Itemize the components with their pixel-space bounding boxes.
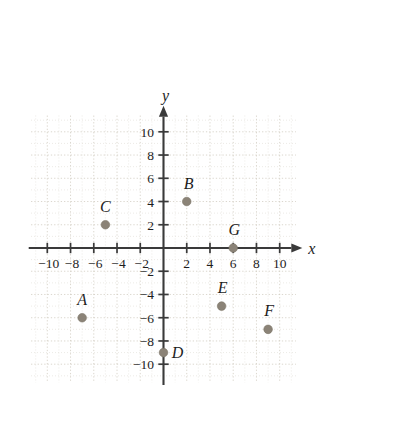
data-point-label: C [100,198,111,215]
x-axis-arrowhead [291,243,302,252]
y-axis-tick-label: −4 [140,287,155,302]
data-point-label: E [217,279,228,296]
x-axis-tick-label: 6 [230,256,237,271]
data-point-b: B [182,175,193,206]
data-point-f: F [263,302,274,333]
x-axis-tick-label: −6 [88,256,103,271]
data-point-label: D [171,344,184,361]
data-point-marker [101,220,110,229]
data-point-marker [264,325,273,334]
y-axis-tick-label: 8 [147,148,154,163]
x-axis-tick-label: 2 [183,256,190,271]
x-axis-tick-label: −4 [111,256,126,271]
data-point-marker [182,197,191,206]
y-axis-tick-label: 10 [141,125,155,140]
data-points-layer: ABCDEFG [76,175,274,361]
y-axis-tick-label: 6 [147,171,154,186]
data-point-marker [229,244,238,253]
data-point-label: F [263,302,274,319]
data-point-marker [159,348,168,357]
y-axis-tick-label: −6 [140,311,155,326]
y-axis-tick-label: 2 [147,218,154,233]
data-point-label: G [228,221,240,238]
data-point-marker [78,313,87,322]
y-axis-tick-label: −2 [140,264,154,279]
x-axis-tick-label: 10 [273,256,287,271]
coordinate-plane-svg: −10−8−6−4−2246810108642−2−4−6−8−10 xy AB… [0,0,416,427]
x-axis-tick-label: −8 [65,256,80,271]
data-point-marker [217,302,226,311]
y-axis-tick-label: 4 [147,195,154,210]
data-point-e: E [217,279,228,310]
x-axis-tick-label: 4 [207,256,214,271]
coordinate-plane-figure: −10−8−6−4−2246810108642−2−4−6−8−10 xy AB… [0,0,416,427]
y-axis-arrowhead [159,106,168,117]
y-axis-tick-label: −8 [140,334,155,349]
y-axis-tick-label: −10 [133,357,154,372]
x-axis-tick-label: 8 [253,256,260,271]
data-point-c: C [100,198,111,229]
data-point-label: A [76,291,87,308]
x-axis-tick-label: −10 [38,256,59,271]
y-axis-title: y [160,87,170,105]
data-point-a: A [76,291,87,322]
x-axis-title: x [307,240,315,257]
data-point-label: B [184,175,194,192]
